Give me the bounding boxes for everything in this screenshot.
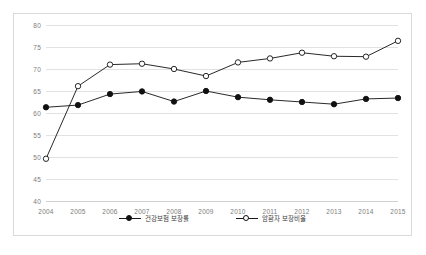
chart-frame: 404550556065707580 200420052006200720082…	[13, 13, 412, 236]
legend-label: 암환자 보장비율	[262, 213, 307, 223]
y-axis-tick-label: 65	[33, 88, 41, 95]
gridline-40	[46, 201, 398, 202]
data-point[interactable]	[363, 54, 368, 59]
legend-item-0[interactable]: 건강보험 보장률	[119, 213, 190, 223]
data-point[interactable]	[139, 89, 144, 94]
data-point[interactable]	[107, 91, 112, 96]
data-point[interactable]	[299, 50, 304, 55]
data-point[interactable]	[235, 60, 240, 65]
legend-label: 건강보험 보장률	[145, 213, 190, 223]
data-point[interactable]	[203, 88, 208, 93]
data-point[interactable]	[299, 99, 304, 104]
data-point[interactable]	[267, 56, 272, 61]
chart-plot-wrapper: 404550556065707580 200420052006200720082…	[14, 14, 411, 235]
data-point[interactable]	[267, 97, 272, 102]
open-circle-icon	[243, 215, 249, 221]
data-point[interactable]	[171, 66, 176, 71]
y-axis-tick-label: 50	[33, 154, 41, 161]
data-point[interactable]	[107, 62, 112, 67]
y-axis-tick-label: 55	[33, 132, 41, 139]
data-point[interactable]	[75, 83, 80, 88]
legend-item-1[interactable]: 암환자 보장비율	[236, 213, 307, 223]
data-point[interactable]	[363, 96, 368, 101]
data-point[interactable]	[395, 95, 400, 100]
data-point[interactable]	[139, 61, 144, 66]
series-1	[43, 38, 400, 161]
series-0	[43, 88, 400, 110]
series-line	[46, 41, 398, 159]
data-point[interactable]	[235, 94, 240, 99]
y-axis-tick-label: 75	[33, 44, 41, 51]
y-axis-tick-label: 60	[33, 110, 41, 117]
y-axis-tick-label: 80	[33, 22, 41, 29]
data-point[interactable]	[171, 99, 176, 104]
legend-line-marker-open-circle-icon	[236, 214, 258, 223]
data-point[interactable]	[43, 105, 48, 110]
data-point[interactable]	[203, 73, 208, 78]
plot-area: 404550556065707580 200420052006200720082…	[46, 25, 398, 201]
legend-line-marker-filled-circle-icon	[119, 214, 141, 223]
y-axis-tick-label: 40	[33, 198, 41, 205]
series-layer	[46, 25, 398, 201]
data-point[interactable]	[331, 54, 336, 59]
data-point[interactable]	[43, 156, 48, 161]
y-axis-tick-label: 45	[33, 176, 41, 183]
data-point[interactable]	[331, 102, 336, 107]
data-point[interactable]	[395, 38, 400, 43]
series-line	[46, 91, 398, 107]
filled-circle-icon	[126, 215, 132, 221]
data-point[interactable]	[75, 102, 80, 107]
chart-legend: 건강보험 보장률 암환자 보장비율	[14, 213, 411, 223]
y-axis-tick-label: 70	[33, 66, 41, 73]
